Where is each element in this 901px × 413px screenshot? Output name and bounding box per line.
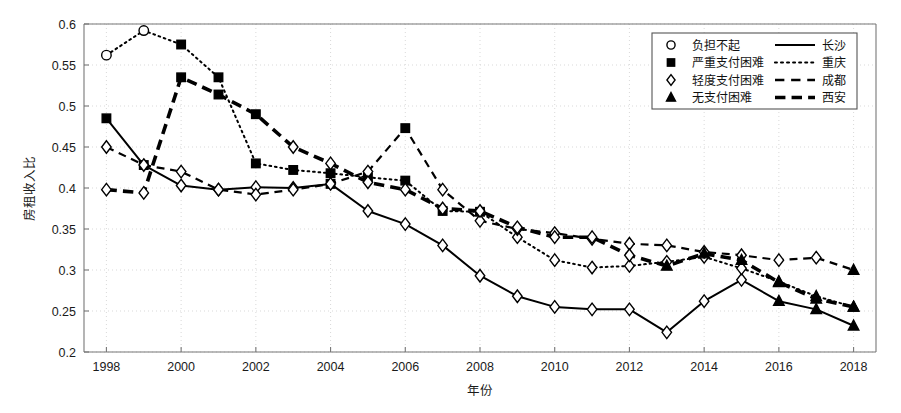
data-point-square	[401, 124, 410, 133]
legend-line-label-西安: 西安	[822, 90, 846, 105]
x-tick-label: 2000	[167, 360, 195, 374]
y-axis-title: 房租收入比	[22, 156, 37, 221]
x-tick-label: 2004	[317, 360, 345, 374]
y-tick-label: 0.3	[59, 264, 76, 278]
legend-line-label-成都: 成都	[822, 74, 846, 88]
y-tick-label: 0.35	[52, 223, 76, 237]
data-point-circle	[102, 50, 112, 60]
data-point-circle	[139, 26, 149, 35]
x-tick-label: 2008	[466, 360, 494, 374]
legend-line-label-长沙: 长沙	[822, 39, 846, 53]
data-point-square	[252, 110, 261, 119]
x-tick-label: 1998	[93, 360, 121, 374]
data-point-circle	[667, 41, 675, 49]
data-point-square	[667, 59, 674, 66]
y-tick-label: 0.6	[59, 18, 76, 32]
y-tick-label: 0.25	[52, 305, 76, 319]
x-tick-label: 2010	[541, 360, 569, 374]
y-tick-label: 0.4	[59, 182, 76, 196]
rent-income-ratio-line-chart: 0.20.250.30.350.40.450.50.550.6 19982000…	[0, 0, 901, 413]
legend-marker-label-square: 严重支付困难	[692, 56, 764, 70]
chart-container: 0.20.250.30.350.40.450.50.550.6 19982000…	[0, 0, 901, 413]
legend-line-label-重庆: 重庆	[822, 56, 846, 70]
data-point-square	[214, 90, 223, 99]
legend-marker-label-diamond: 轻度支付困难	[692, 73, 764, 88]
y-tick-label: 0.2	[59, 346, 76, 360]
x-tick-label: 2014	[690, 360, 718, 374]
y-tick-label: 0.5	[59, 100, 76, 114]
data-point-square	[214, 73, 223, 82]
x-axis-title: 年份	[467, 383, 493, 398]
y-tick-label: 0.55	[52, 59, 76, 73]
x-tick-label: 2006	[391, 360, 419, 374]
y-tick-label: 0.45	[52, 141, 76, 155]
x-tick-label: 2018	[840, 360, 868, 374]
data-point-square	[177, 40, 186, 49]
legend-marker-label-circle: 负担不起	[692, 39, 740, 53]
x-tick-label: 2002	[242, 360, 270, 374]
legend: 负担不起严重支付困难轻度支付困难无支付困难长沙重庆成都西安	[652, 33, 857, 109]
x-tick-label: 2016	[765, 360, 793, 374]
x-tick-label: 2012	[616, 360, 644, 374]
data-point-square	[177, 73, 186, 82]
data-point-square	[289, 166, 298, 175]
data-point-square	[102, 114, 111, 123]
legend-marker-label-triangle: 无支付困难	[692, 91, 752, 105]
data-point-square	[252, 159, 261, 168]
